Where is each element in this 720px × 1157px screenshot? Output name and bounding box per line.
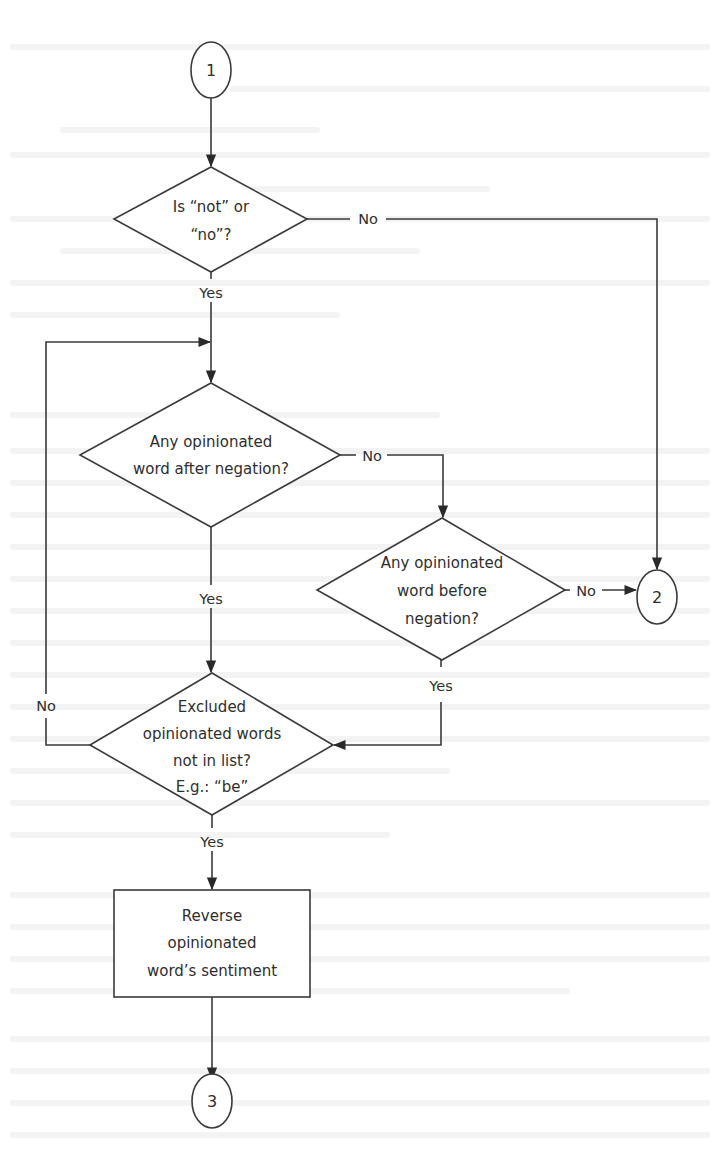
connector-1: 1 <box>191 42 231 98</box>
decision-label-line: word after negation? <box>133 460 289 478</box>
decision-label-line: Any opinionated <box>381 554 503 572</box>
edge-opinion-before-yes-to-excluded-check <box>334 660 441 745</box>
edge-label-no: No <box>362 448 382 464</box>
connector-3: 3 <box>192 1074 232 1128</box>
decision-label-line: E.g.: “be” <box>176 778 249 796</box>
decision-label-line: negation? <box>405 610 479 628</box>
edge-label-no: No <box>358 211 378 227</box>
connector-2-label: 2 <box>652 588 662 607</box>
decision-label-line: word before <box>397 582 487 600</box>
decision-is-negation: Is “not” or “no”? <box>114 167 307 272</box>
negation-flowchart: No Yes No Yes No Yes No Yes <box>0 0 720 1157</box>
decision-label-line: Excluded <box>178 698 246 716</box>
process-reverse-sentiment: Reverse opinionated word’s sentiment <box>114 890 310 997</box>
edge-opinion-after-no-to-opinion-before <box>340 455 443 517</box>
decision-label-line: “no”? <box>191 226 232 244</box>
edge-label-no: No <box>576 583 596 599</box>
edge-label-yes: Yes <box>199 834 223 850</box>
process-label-line: word’s sentiment <box>147 962 277 980</box>
decision-opinion-after-negation: Any opinionated word after negation? <box>80 383 340 527</box>
edge-label-yes: Yes <box>198 285 222 301</box>
decision-label-line: Is “not” or <box>173 198 250 216</box>
process-label-line: Reverse <box>182 907 242 925</box>
connector-2: 2 <box>637 570 677 624</box>
edge-label-yes: Yes <box>198 591 222 607</box>
decision-excluded-words-check: Excluded opinionated words not in list? … <box>90 673 333 815</box>
process-label-line: opinionated <box>167 934 256 952</box>
decision-label-line: not in list? <box>173 752 251 770</box>
connector-1-label: 1 <box>206 61 216 80</box>
connector-3-label: 3 <box>207 1092 217 1111</box>
edge-label-no: No <box>36 698 56 714</box>
decision-label-line: opinionated words <box>143 725 282 743</box>
edge-label-yes: Yes <box>428 678 452 694</box>
decision-label-line: Any opinionated <box>150 433 272 451</box>
edge-negation-no-to-connector-2 <box>307 209 657 569</box>
decision-opinion-before-negation: Any opinionated word before negation? <box>317 518 565 660</box>
